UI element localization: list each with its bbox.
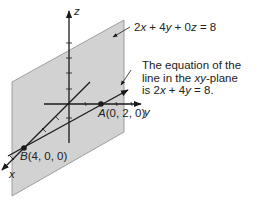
- point-a: [98, 101, 104, 107]
- line-equation-note: The equation of the line in the xy-plane…: [142, 59, 241, 97]
- x-axis-label: x: [9, 168, 15, 181]
- point-b-label: B(4, 0, 0): [20, 150, 67, 163]
- z-axis-label: z: [74, 5, 80, 18]
- plane-equation: 2x + 4y + 0z = 8: [134, 21, 216, 34]
- diagram-canvas: [0, 0, 262, 204]
- point-a-label: A(0, 2, 0): [98, 107, 145, 120]
